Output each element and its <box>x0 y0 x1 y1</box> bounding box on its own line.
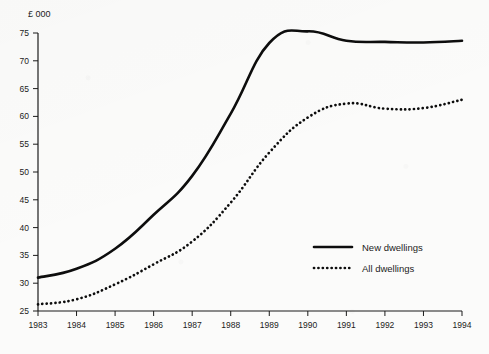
legend-label-new-dwellings: New dwellings <box>362 242 423 253</box>
y-tick-label: 40 <box>20 223 30 233</box>
y-tick-label: 45 <box>20 195 30 205</box>
x-tick-label: 1989 <box>260 320 279 330</box>
x-axis-ticks <box>38 311 462 316</box>
line-chart: £ 000 2530354045505560657075 19831984198… <box>0 0 489 354</box>
x-tick-label: 1984 <box>67 320 86 330</box>
series-all-dwellings <box>38 100 462 305</box>
y-tick-label: 25 <box>20 306 30 316</box>
x-tick-label: 1988 <box>221 320 240 330</box>
y-tick-label: 65 <box>20 84 30 94</box>
y-tick-label: 35 <box>20 250 30 260</box>
legend-label-all-dwellings: All dwellings <box>362 263 415 274</box>
x-tick-label: 1990 <box>298 320 317 330</box>
y-axis-tick-labels: 2530354045505560657075 <box>20 28 30 316</box>
x-tick-label: 1983 <box>29 320 48 330</box>
y-tick-label: 60 <box>20 111 30 121</box>
x-tick-label: 1985 <box>106 320 125 330</box>
x-tick-label: 1987 <box>183 320 202 330</box>
y-tick-label: 30 <box>20 278 30 288</box>
y-tick-label: 55 <box>20 139 30 149</box>
chart-legend: New dwellings All dwellings <box>314 242 423 274</box>
chart-page: £ 000 2530354045505560657075 19831984198… <box>0 0 489 354</box>
y-tick-label: 75 <box>20 28 30 38</box>
y-axis-ticks <box>33 33 38 311</box>
y-tick-label: 70 <box>20 56 30 66</box>
x-tick-label: 1994 <box>453 320 472 330</box>
x-tick-label: 1993 <box>414 320 433 330</box>
x-tick-label: 1992 <box>375 320 394 330</box>
chart-axes: 2530354045505560657075 19831984198519861… <box>20 28 472 330</box>
y-axis-unit-label: £ 000 <box>28 9 51 19</box>
x-tick-label: 1991 <box>337 320 356 330</box>
y-tick-label: 50 <box>20 167 30 177</box>
x-tick-label: 1986 <box>144 320 163 330</box>
x-axis-tick-labels: 1983198419851986198719881989199019911992… <box>29 320 472 330</box>
